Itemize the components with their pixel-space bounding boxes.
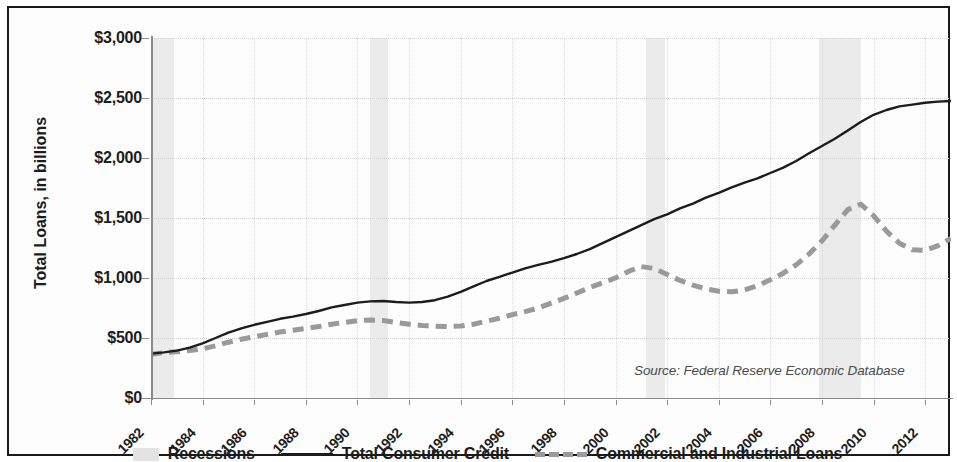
legend-item-recessions: Recessions	[133, 445, 255, 462]
y-axis-tick-label: $2,000	[94, 149, 142, 167]
x-axis-tick-mark	[667, 400, 668, 405]
dashed-line-swatch-icon	[535, 452, 587, 457]
x-axis-tick-mark	[306, 400, 307, 405]
plot-clip	[151, 38, 951, 398]
series-line-commercial-industrial-loans	[151, 204, 951, 354]
series-layer	[151, 38, 951, 398]
y-axis-tick-mark	[142, 98, 149, 99]
chart-figure: $3,000$2,500$2,000$1,500$1,000$500$0 Tot…	[0, 0, 957, 462]
x-axis-tick-mark	[151, 400, 152, 405]
y-axis-tick-label: $3,000	[94, 29, 142, 47]
plot-area	[151, 38, 951, 398]
x-axis-tick-mark	[203, 400, 204, 405]
solid-line-swatch-icon	[281, 453, 333, 456]
source-annotation: Source: Federal Reserve Economic Databas…	[634, 363, 905, 378]
y-axis-tick-labels: $3,000$2,500$2,000$1,500$1,000$500$0	[9, 38, 142, 398]
x-axis-tick-mark	[874, 400, 875, 405]
y-axis-tick-mark	[142, 158, 149, 159]
legend-item-total-consumer-credit: Total Consumer Credit	[281, 445, 509, 462]
x-axis-tick-mark	[719, 400, 720, 405]
x-axis-tick-labels: 1982198419861988199019921994199619982000…	[151, 400, 951, 446]
y-axis-tick-label: $1,500	[94, 209, 142, 227]
legend-label-total-consumer-credit: Total Consumer Credit	[342, 445, 509, 462]
x-axis-tick-mark	[822, 400, 823, 405]
y-axis-title: Total Loans, in billions	[32, 53, 50, 353]
y-axis-tick-mark	[142, 218, 149, 219]
figure-border: $3,000$2,500$2,000$1,500$1,000$500$0 Tot…	[7, 6, 950, 456]
legend-label-commercial-and-industrial-loans: Commercial and Industrial Loans	[596, 445, 842, 462]
y-axis-tick-label: $500	[107, 329, 142, 347]
y-axis-tick-label: $1,000	[94, 269, 142, 287]
chart-legend: Recessions Total Consumer Credit Commerc…	[18, 442, 957, 462]
y-axis-tick-mark	[142, 38, 149, 39]
x-axis-tick-mark	[409, 400, 410, 405]
y-axis-tick-label: $2,500	[94, 89, 142, 107]
x-axis-tick-mark	[254, 400, 255, 405]
x-axis-tick-mark	[564, 400, 565, 405]
x-axis-tick-mark	[616, 400, 617, 405]
y-axis-tick-label: $0	[125, 389, 142, 407]
y-axis-tick-mark	[142, 398, 149, 399]
x-axis-tick-mark	[770, 400, 771, 405]
x-axis-tick-mark	[925, 400, 926, 405]
legend-label-recessions: Recessions	[168, 445, 255, 462]
x-axis-tick-mark	[357, 400, 358, 405]
shaded-band-swatch-icon	[133, 448, 159, 461]
x-axis-tick-mark	[512, 400, 513, 405]
x-axis-line	[149, 398, 953, 399]
y-axis-tick-mark	[142, 338, 149, 339]
y-axis-tick-mark	[142, 278, 149, 279]
y-axis-line	[151, 36, 153, 400]
x-axis-tick-mark	[461, 400, 462, 405]
legend-item-commercial-and-industrial-loans: Commercial and Industrial Loans	[535, 445, 842, 462]
